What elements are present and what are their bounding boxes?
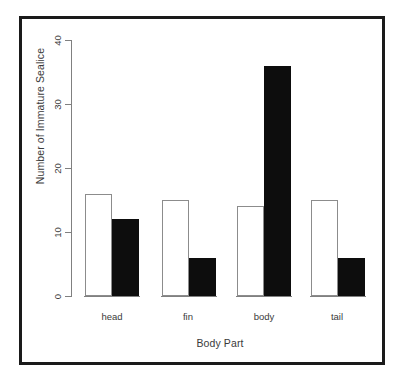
figure-container: Number of Immature Sealice Body Part 0 1… bbox=[0, 0, 404, 383]
y-tick-mark-1 bbox=[65, 232, 71, 233]
y-tick-label-1: 10 bbox=[52, 220, 63, 246]
x-tick-label-head: head bbox=[77, 311, 147, 322]
bar-body-filled bbox=[264, 66, 291, 296]
y-tick-mark-4 bbox=[65, 40, 71, 41]
bar-fin-open bbox=[162, 200, 189, 296]
bar-tail-filled bbox=[338, 258, 365, 296]
x-axis-baseline-body bbox=[236, 296, 292, 297]
bar-body-open bbox=[237, 206, 264, 296]
chart-plot-area: Number of Immature Sealice Body Part 0 1… bbox=[0, 0, 404, 383]
bar-head-filled bbox=[112, 219, 139, 296]
y-axis-line bbox=[71, 40, 72, 297]
bar-tail-open bbox=[311, 200, 338, 296]
x-tick-label-body: body bbox=[229, 311, 299, 322]
y-axis-title: Number of Immature Sealice bbox=[34, 16, 46, 216]
x-tick-label-tail: tail bbox=[302, 311, 372, 322]
y-tick-label-0: 0 bbox=[52, 284, 63, 310]
y-tick-label-2: 20 bbox=[52, 156, 63, 182]
bar-fin-filled bbox=[189, 258, 216, 296]
x-axis-title: Body Part bbox=[70, 337, 370, 349]
y-tick-mark-2 bbox=[65, 168, 71, 169]
y-tick-mark-0 bbox=[65, 296, 71, 297]
y-tick-mark-3 bbox=[65, 104, 71, 105]
bar-head-open bbox=[85, 194, 112, 296]
x-axis-baseline-tail bbox=[310, 296, 366, 297]
y-tick-label-4: 40 bbox=[52, 28, 63, 54]
y-tick-label-3: 30 bbox=[52, 92, 63, 118]
x-axis-baseline-fin bbox=[161, 296, 217, 297]
x-axis-baseline-head bbox=[84, 296, 140, 297]
x-tick-label-fin: fin bbox=[153, 311, 223, 322]
